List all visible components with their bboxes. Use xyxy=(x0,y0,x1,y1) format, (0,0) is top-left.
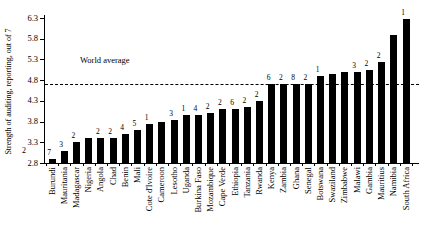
country-label: Ghana xyxy=(292,167,301,229)
plot-area: 7Burundi3Mauritania2MadagascarNigeria2An… xyxy=(44,15,419,164)
bar xyxy=(378,62,385,164)
bar-value-label: 1 xyxy=(396,9,410,17)
x-tick-mark xyxy=(168,163,169,166)
country-label: Kenya xyxy=(267,167,276,229)
country-label: Mauritius xyxy=(377,167,386,229)
bar xyxy=(232,109,239,163)
y-tick-mark xyxy=(40,18,44,19)
bar-value-label: 1 xyxy=(140,114,154,122)
country-label: Mauritania xyxy=(60,167,69,229)
x-tick-mark xyxy=(192,163,193,166)
y-tick-label: 6.3 xyxy=(10,13,38,24)
country-label: Cape Verde xyxy=(218,167,227,229)
y-tick-mark xyxy=(40,142,44,143)
bar xyxy=(280,84,287,163)
x-tick-mark xyxy=(217,163,218,166)
bar xyxy=(73,142,80,163)
country-label: Ethiopia xyxy=(231,167,240,229)
bar-value-label: 2 xyxy=(372,52,386,60)
country-label: Burundi xyxy=(48,167,57,229)
bar xyxy=(219,109,226,163)
x-tick-mark xyxy=(229,163,230,166)
country-label: Cameroon xyxy=(157,167,166,229)
x-tick-mark xyxy=(351,163,352,166)
bar xyxy=(61,151,68,163)
country-label: Uganda xyxy=(182,167,191,229)
country-label: Cote d'Ivoire xyxy=(145,167,154,229)
bar-value-label: 2 xyxy=(298,74,312,82)
x-tick-mark xyxy=(266,163,267,166)
x-tick-mark xyxy=(314,163,315,166)
country-label: Nigeria xyxy=(84,167,93,229)
x-tick-mark xyxy=(278,163,279,166)
country-label: Tanzania xyxy=(243,167,252,229)
country-label: South Africa xyxy=(402,167,411,229)
x-tick-mark xyxy=(83,163,84,166)
country-label: Malawi xyxy=(353,167,362,229)
country-label: Zimbabwe xyxy=(340,167,349,229)
x-tick-mark xyxy=(144,163,145,166)
y-tick-label: 5.8 xyxy=(10,33,38,44)
x-tick-mark xyxy=(46,163,47,166)
y-tick-mark xyxy=(40,163,44,164)
y-tick-mark xyxy=(40,101,44,102)
bar xyxy=(293,84,300,163)
y-tick-label: 3.3 xyxy=(10,137,38,148)
x-tick-mark xyxy=(302,163,303,166)
bar xyxy=(85,138,92,163)
bar xyxy=(390,35,397,163)
bar-value-label: 7 xyxy=(42,149,56,157)
bar xyxy=(134,130,141,163)
y-tick-mark xyxy=(40,39,44,40)
country-label: Burkina Faso xyxy=(194,167,203,229)
y-tick-label: 4.8 xyxy=(10,75,38,86)
x-tick-mark xyxy=(58,163,59,166)
x-tick-mark xyxy=(180,163,181,166)
bar xyxy=(183,115,190,163)
bar-value-label: 1 xyxy=(311,66,325,74)
x-tick-mark xyxy=(156,163,157,166)
x-tick-mark xyxy=(327,163,328,166)
y-tick-mark xyxy=(40,59,44,60)
x-tick-mark xyxy=(107,163,108,166)
bar xyxy=(171,120,178,164)
bar xyxy=(110,138,117,163)
bar xyxy=(195,115,202,163)
y-tick-label: 2.8 xyxy=(10,158,38,169)
y-tick-label: 4.3 xyxy=(10,95,38,106)
y-tick-label: 3.8 xyxy=(10,116,38,127)
bar xyxy=(122,134,129,163)
x-tick-mark xyxy=(241,163,242,166)
country-label: Botswana xyxy=(316,167,325,229)
country-label: Lesotho xyxy=(170,167,179,229)
x-tick-mark xyxy=(253,163,254,166)
bar xyxy=(244,107,251,163)
bar xyxy=(97,138,104,163)
bar xyxy=(49,159,56,163)
country-label: Namibia xyxy=(389,167,398,229)
country-label: Madagascar xyxy=(72,167,81,229)
x-tick-mark xyxy=(375,163,376,166)
bar xyxy=(268,84,275,163)
x-tick-mark xyxy=(363,163,364,166)
country-label: Gambia xyxy=(365,167,374,229)
bar xyxy=(158,122,165,163)
bar xyxy=(329,74,336,163)
x-tick-mark xyxy=(339,163,340,166)
country-label: Mozambique xyxy=(206,167,215,229)
country-label: Chad xyxy=(109,167,118,229)
country-label: Rwanda xyxy=(255,167,264,229)
bar xyxy=(146,124,153,163)
bar xyxy=(354,72,361,163)
bar xyxy=(317,76,324,163)
x-tick-mark xyxy=(400,163,401,166)
bar xyxy=(207,113,214,163)
x-tick-mark xyxy=(388,163,389,166)
x-tick-mark xyxy=(412,163,413,166)
y-tick-mark xyxy=(40,122,44,123)
x-tick-mark xyxy=(131,163,132,166)
x-tick-mark xyxy=(95,163,96,166)
world-average-line xyxy=(45,84,419,85)
country-label: Benin xyxy=(121,167,130,229)
bar xyxy=(366,70,373,163)
